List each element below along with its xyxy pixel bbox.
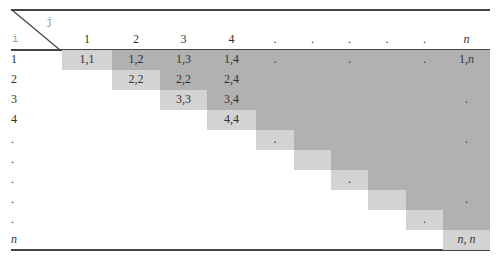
upper-cell: . [443,90,490,110]
column-header: 2 [112,32,160,48]
row-label: . [11,152,14,167]
diagonal-cell: 3,3 [160,90,207,110]
row-label: n [11,232,17,247]
row-label: . [11,172,14,187]
column-header: 1 [62,32,112,48]
diagonal-cell: . [406,210,443,230]
bottom-rule [11,249,490,251]
row-label: 2 [11,72,17,87]
upper-cell: . [443,190,490,210]
corner-row-symbol: i [12,33,19,45]
upper-cell [368,50,406,70]
column-header: 4 [207,32,256,48]
diagonal-cell: 1,1 [62,50,112,70]
diagonal-cell: . [256,130,294,150]
upper-cell [331,150,368,170]
upper-cell [406,190,443,210]
upper-cell [368,150,406,170]
upper-cell [294,130,331,150]
upper-cell [406,130,443,150]
upper-cell [294,90,331,110]
upper-cell: 1,4 [207,50,256,70]
diagonal-cell: 2,2 [112,70,160,90]
column-header: n [443,32,490,48]
upper-cell [443,70,490,90]
column-header: . [406,32,443,48]
diagonal-cell: n, n [443,230,490,250]
upper-cell [406,70,443,90]
row-label: . [11,192,14,207]
upper-cell [443,150,490,170]
upper-cell [406,110,443,130]
corner-col-symbol: j [46,16,53,28]
row-label: 1 [11,52,17,67]
upper-cell [294,50,331,70]
upper-cell [331,70,368,90]
upper-cell: . [331,50,368,70]
row-label: 3 [11,92,17,107]
upper-cell [331,130,368,150]
upper-cell [443,170,490,190]
column-header: . [368,32,406,48]
column-header: . [331,32,368,48]
upper-cell: 2,4 [207,70,256,90]
upper-cell: . [256,50,294,70]
upper-cell: 3,4 [207,90,256,110]
column-header: . [294,32,331,48]
row-label: . [11,212,14,227]
upper-cell: . [443,130,490,150]
upper-cell [368,70,406,90]
upper-cell [406,150,443,170]
column-header: . [256,32,294,48]
corner-diagonal-line [0,0,70,55]
upper-cell [368,170,406,190]
column-header: 3 [160,32,207,48]
upper-cell [443,210,490,230]
row-label: 4 [11,112,17,127]
upper-cell [368,90,406,110]
top-rule [11,9,490,11]
upper-cell [294,110,331,130]
upper-cell [331,110,368,130]
upper-cell: 1,2 [112,50,160,70]
upper-cell [443,110,490,130]
upper-cell [406,90,443,110]
upper-cell [368,110,406,130]
upper-cell: . [406,50,443,70]
diagonal-cell: 4,4 [207,110,256,130]
upper-cell: 1,n [443,50,490,70]
upper-cell [406,170,443,190]
upper-cell [256,110,294,130]
upper-cell [331,90,368,110]
upper-cell [256,90,294,110]
diagonal-cell: . [331,170,368,190]
upper-cell: 1,3 [160,50,207,70]
upper-cell [368,130,406,150]
diagonal-cell [368,190,406,210]
upper-cell [256,70,294,90]
row-label: . [11,132,14,147]
upper-cell [294,70,331,90]
diagonal-cell [294,150,331,170]
upper-cell: 2,2 [160,70,207,90]
